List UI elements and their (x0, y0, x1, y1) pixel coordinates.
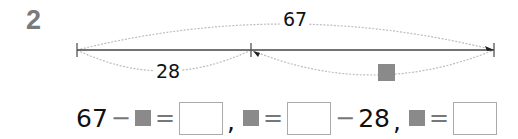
unknown-arc (251, 50, 494, 75)
eq1-minus: − (111, 104, 131, 132)
eq1-comma: , (227, 107, 235, 137)
number-line-diagram (0, 0, 518, 100)
arrow-middle-icon (253, 51, 260, 57)
eq1-minuend: 67 (76, 104, 108, 133)
unknown-square-icon (243, 110, 259, 126)
eq1-equals: = (155, 104, 175, 132)
eq3-answer-box[interactable] (453, 102, 497, 135)
unknown-square-icon (409, 110, 425, 126)
eq2-comma: , (393, 107, 401, 137)
total-label: 67 (281, 8, 309, 30)
eq2-answer-box[interactable] (287, 102, 331, 135)
equation-row: 67 − = , = − 28 , = (75, 99, 499, 137)
unknown-square-icon (135, 110, 151, 126)
eq3-equals: = (429, 104, 449, 132)
unknown-square-icon (378, 64, 395, 81)
eq2-equals: = (263, 104, 283, 132)
part-label: 28 (154, 60, 182, 82)
eq1-answer-box[interactable] (179, 102, 223, 135)
eq2-minus: − (335, 104, 355, 132)
eq2-subtrahend: 28 (358, 104, 390, 133)
